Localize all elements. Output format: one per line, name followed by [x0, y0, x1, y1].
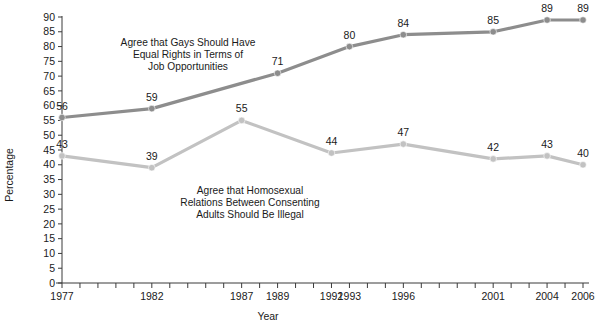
y-axis-tick-label: 40 — [43, 158, 55, 170]
y-axis-tick-label: 0 — [49, 277, 55, 289]
x-axis-tick-label: 1993 — [338, 290, 362, 302]
data-point — [400, 31, 407, 38]
data-point-label: 56 — [56, 100, 68, 112]
data-point — [328, 150, 335, 157]
data-point — [346, 43, 353, 50]
data-point — [580, 17, 587, 24]
y-axis-tick-label: 70 — [43, 70, 55, 82]
data-point-label: 59 — [146, 91, 158, 103]
data-point — [400, 141, 407, 148]
data-point — [490, 156, 497, 163]
x-axis-tick-label: 1977 — [50, 290, 74, 302]
y-axis-tick-label: 25 — [43, 203, 55, 215]
data-point — [490, 29, 497, 36]
data-point — [59, 153, 66, 160]
y-axis-tick-label: 5 — [49, 262, 55, 274]
data-point-label: 42 — [487, 141, 499, 153]
data-point — [59, 114, 66, 121]
line-chart: Percentage Year 051015202530354045505560… — [0, 0, 604, 323]
data-point-label: 55 — [236, 102, 248, 114]
x-axis-tick-label: 2001 — [481, 290, 505, 302]
y-axis-tick-label: 60 — [43, 99, 55, 111]
data-point — [274, 70, 281, 77]
data-point — [149, 164, 156, 171]
annotation-line: Adults Should Be Illegal — [196, 209, 304, 220]
x-axis-tick-label: 1996 — [392, 290, 416, 302]
data-point-label: 39 — [146, 150, 158, 162]
y-axis-tick-label: 35 — [43, 173, 55, 185]
x-axis-title: Year — [257, 310, 279, 322]
data-point — [544, 153, 551, 160]
y-axis-tick-label: 20 — [43, 218, 55, 230]
y-axis-title: Percentage — [3, 148, 15, 202]
annotation-line: Equal Rights in Terms of — [133, 49, 243, 60]
x-axis-tick-label: 1987 — [230, 290, 254, 302]
annotation-line: Relations Between Consenting — [180, 197, 320, 208]
y-axis-tick-label: 50 — [43, 129, 55, 141]
data-point — [544, 17, 551, 24]
annotation-line: Job Opportunities — [148, 61, 228, 72]
chart-background — [0, 0, 604, 323]
x-axis-tick-label: 1982 — [140, 290, 164, 302]
y-axis-tick-label: 90 — [43, 11, 55, 23]
annotation-line: Agree that Gays Should Have — [121, 37, 256, 48]
data-point-label: 84 — [397, 17, 409, 29]
y-axis-tick-label: 10 — [43, 247, 55, 259]
y-axis-tick-label: 85 — [43, 25, 55, 37]
x-axis-tick-label: 2004 — [535, 290, 559, 302]
y-axis-tick-label: 80 — [43, 40, 55, 52]
data-point-label: 44 — [326, 135, 338, 147]
y-axis-tick-label: 30 — [43, 188, 55, 200]
annotation-line: Agree that Homosexual — [197, 185, 303, 196]
data-point — [580, 162, 587, 169]
data-point-label: 71 — [272, 55, 284, 67]
data-point-label: 89 — [541, 2, 553, 14]
data-point-label: 80 — [344, 29, 356, 41]
data-point-label: 47 — [397, 126, 409, 138]
data-point — [238, 117, 245, 124]
data-point-label: 89 — [577, 2, 589, 14]
x-axis-tick-label: 1989 — [266, 290, 290, 302]
chart-canvas: Percentage Year 051015202530354045505560… — [0, 0, 604, 323]
data-point-label: 43 — [56, 138, 68, 150]
data-point — [149, 105, 156, 112]
y-axis-tick-label: 45 — [43, 144, 55, 156]
y-axis-tick-label: 65 — [43, 85, 55, 97]
y-axis-tick-label: 15 — [43, 232, 55, 244]
y-axis-tick-label: 55 — [43, 114, 55, 126]
data-point-label: 43 — [541, 138, 553, 150]
data-point-label: 85 — [487, 14, 499, 26]
x-axis-tick-label: 2006 — [571, 290, 595, 302]
annotation-lower: Agree that HomosexualRelations Between C… — [180, 185, 320, 220]
data-point-label: 40 — [577, 147, 589, 159]
y-axis-tick-label: 75 — [43, 55, 55, 67]
